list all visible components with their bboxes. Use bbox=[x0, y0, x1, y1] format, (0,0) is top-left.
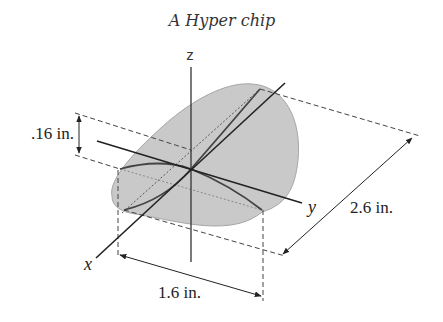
length-label: 2.6 in. bbox=[350, 198, 393, 217]
z-axis-label: z bbox=[186, 46, 194, 63]
diagram-title: A Hyper chip bbox=[167, 11, 276, 30]
y-axis-label: y bbox=[306, 197, 316, 217]
thickness-bottom-extension bbox=[75, 155, 120, 169]
width-label: 1.6 in. bbox=[158, 283, 201, 302]
thickness-label: .16 in. bbox=[31, 124, 74, 143]
length-dimension-arrow bbox=[283, 138, 412, 254]
x-axis-label: x bbox=[83, 254, 92, 274]
hyper-chip-diagram: A Hyper chip .16 in. 2.6 in. 1.6 in. z y… bbox=[0, 0, 443, 322]
